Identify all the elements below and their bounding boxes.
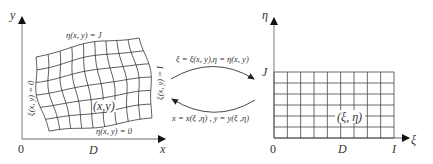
forward-mapping-label: ξ = ξ(x, y),η = η(x, y): [176, 55, 249, 64]
right-boundary-label: ξ(x, y) = I: [156, 66, 165, 100]
computational-rectangular-grid: [274, 72, 394, 138]
curvilinear-line-eta: [37, 51, 144, 70]
inverse-mapping-arrow: [172, 99, 255, 112]
xi-axis-label: ξ: [411, 134, 416, 146]
eta-axis-label: η: [262, 9, 268, 21]
diagram-graphics: [0, 0, 433, 164]
bottom-boundary-label: η(x, y) = 0: [96, 127, 132, 136]
left-boundary-label: ξ(x, y) = 0: [27, 81, 36, 116]
inverse-mapping-label: x = x(ξ ,η) , y = y(ξ ,η): [172, 114, 249, 123]
grid-transformation-diagram: y x 0 D η(x, y) = J η(x, y) = 0 ξ(x, y) …: [0, 0, 433, 164]
computational-point-label: (ξ, η): [337, 111, 362, 123]
physical-curvilinear-grid: [36, 38, 152, 131]
top-boundary-label: η(x, y) = J: [66, 31, 101, 40]
physical-point-label: (x,y): [92, 100, 116, 112]
eta-max-label: J: [262, 66, 267, 78]
computational-d-label: D: [338, 143, 347, 155]
y-axis-label: y: [10, 9, 15, 21]
x-axis-label: x: [160, 143, 165, 155]
physical-d-label: D: [89, 144, 98, 156]
xi-max-label: I: [392, 143, 396, 155]
computational-origin-label: 0: [270, 143, 276, 155]
curvilinear-line-eta: [36, 38, 139, 57]
forward-mapping-arrow: [171, 67, 254, 80]
physical-origin-label: 0: [18, 143, 24, 155]
